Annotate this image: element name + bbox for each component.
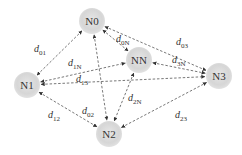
edge-label-subscript: 0N — [121, 39, 130, 47]
edge-label-d23: d23 — [175, 109, 188, 123]
edge-label-d01: d01 — [34, 43, 47, 57]
edge-label-subscript: 12 — [53, 115, 61, 123]
edge-label-d12: d12 — [48, 109, 61, 123]
node-label: N1 — [20, 79, 33, 91]
node-label: NN — [131, 54, 147, 66]
edge-label-d0n: d0N — [116, 33, 130, 47]
edge-label-d3n: d3N — [172, 54, 186, 68]
node-label: N0 — [85, 15, 99, 27]
node-n0: N0 — [79, 8, 105, 34]
edge-n0-n2 — [94, 35, 107, 120]
edge-labels-layer: d01d0Nd03d02d1Nd13d12d3Nd2Nd23 — [34, 33, 189, 123]
edge-label-d02: d02 — [82, 105, 95, 119]
edge-label-d13: d13 — [76, 73, 89, 87]
node-n3: N3 — [206, 63, 232, 89]
edge-label-subscript: 02 — [87, 111, 95, 119]
edge-n1-n3 — [41, 77, 205, 85]
node-n1: N1 — [14, 72, 40, 98]
edge-label-subscript: 13 — [81, 79, 89, 87]
node-nn: NN — [126, 47, 152, 73]
edge-label-subscript: 2N — [133, 98, 142, 106]
edge-label-subscript: 01 — [39, 49, 47, 57]
node-label: N2 — [102, 128, 115, 140]
network-diagram: N0NNN3N1N2 d01d0Nd03d02d1Nd13d12d3Nd2Nd2… — [0, 0, 242, 155]
node-label: N3 — [212, 70, 226, 82]
edge-label-d1n: d1N — [68, 57, 82, 71]
node-n2: N2 — [96, 121, 122, 147]
edge-label-d2n: d2N — [128, 92, 142, 106]
edge-label-d03: d03 — [176, 36, 189, 50]
edge-label-subscript: 3N — [177, 60, 186, 68]
edge-label-subscript: 1N — [73, 63, 82, 71]
edge-label-subscript: 23 — [180, 115, 188, 123]
edge-label-subscript: 03 — [181, 42, 189, 50]
nodes-layer: N0NNN3N1N2 — [14, 8, 232, 147]
